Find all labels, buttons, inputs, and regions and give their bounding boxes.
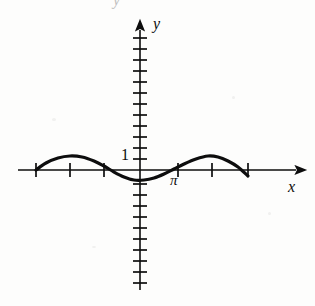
graph-canvas <box>0 0 315 306</box>
y-axis-label: y <box>153 15 160 33</box>
x-axis-group <box>18 163 296 177</box>
unit-tick-label: 1 <box>121 146 129 164</box>
figure-container: y x 1 π y <box>0 0 315 306</box>
partial-cropped-glyph: y <box>113 0 120 9</box>
x-axis-label: x <box>288 178 295 196</box>
pi-tick-label: π <box>170 172 178 189</box>
y-axis-group <box>133 30 147 290</box>
